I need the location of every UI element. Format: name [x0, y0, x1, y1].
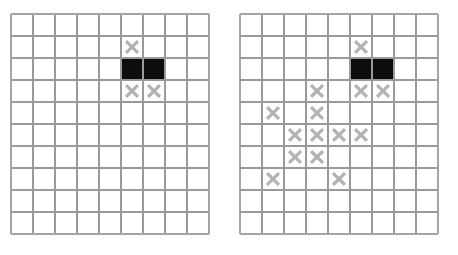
right-grid — [239, 13, 437, 233]
left-grid — [10, 13, 208, 233]
figure-canvas — [0, 0, 458, 255]
